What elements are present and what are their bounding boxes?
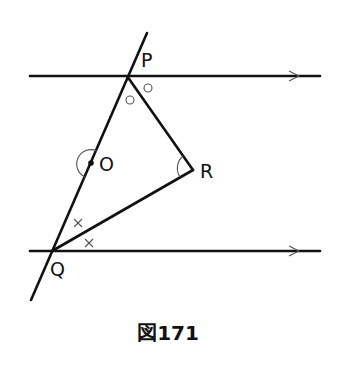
label-R: R xyxy=(200,160,213,182)
angle-mark-cross-icon xyxy=(85,239,93,247)
label-Q: Q xyxy=(50,258,65,280)
figure-caption: 図171 xyxy=(137,321,199,345)
label-O: O xyxy=(99,153,114,175)
segment-RQ xyxy=(52,170,193,251)
geometry-figure: P O R Q 図171 xyxy=(0,0,349,365)
angle-mark-cross-icon xyxy=(74,219,82,227)
label-P: P xyxy=(141,49,152,71)
point-O-dot xyxy=(88,160,94,166)
angle-mark-circle-icon xyxy=(126,96,134,104)
transversal-line xyxy=(31,33,147,300)
segment-PR xyxy=(127,76,193,170)
angle-arc-R-icon xyxy=(177,156,183,177)
angle-mark-circle-icon xyxy=(144,84,152,92)
